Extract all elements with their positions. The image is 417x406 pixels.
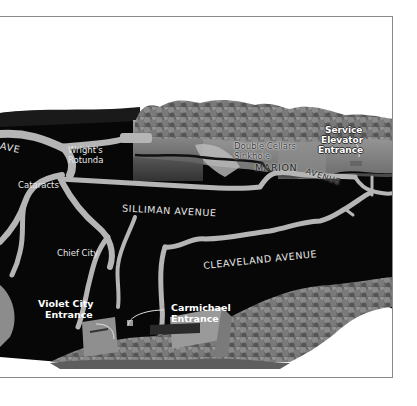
label-marion: MARION <box>255 163 297 173</box>
map-frame: AVE Wright's Rotunda Cataracts Double Ce… <box>0 16 393 378</box>
label-carmichael-1: Carmichael <box>171 303 231 313</box>
label-wrights-rotunda-1: Wright's <box>68 146 103 155</box>
label-cataracts: Cataracts <box>18 181 59 190</box>
label-carmichael-2: Entrance <box>171 314 219 324</box>
label-double-cellars-1: Double Cellars <box>234 142 296 151</box>
label-chief-city: Chief City <box>57 249 98 258</box>
label-violet-city-1: Violet City <box>38 299 93 309</box>
label-service-elevator-3: Entrance <box>318 146 363 155</box>
label-double-cellars-2: Sinkhole <box>234 152 270 161</box>
label-violet-city-2: Entrance <box>45 310 93 320</box>
label-wrights-rotunda-2: Rotunda <box>68 156 103 165</box>
